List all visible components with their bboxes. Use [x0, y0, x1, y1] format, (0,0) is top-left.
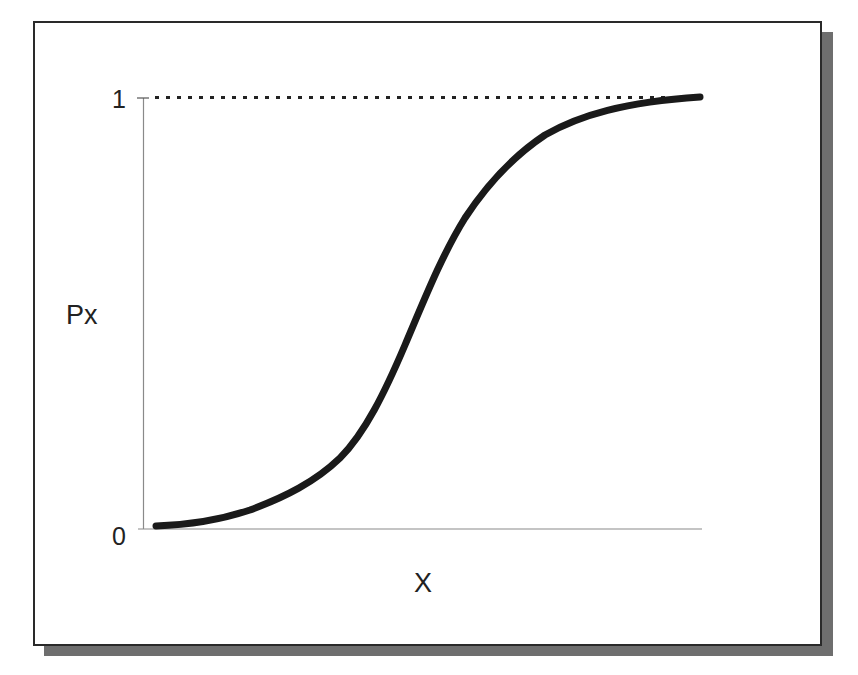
x-axis-label: X [414, 570, 432, 597]
y-axis-label: Px [66, 302, 98, 329]
cdf-curve [156, 97, 700, 526]
y-tick-label-bottom: 0 [112, 524, 126, 549]
y-tick-label-top: 1 [112, 87, 126, 112]
